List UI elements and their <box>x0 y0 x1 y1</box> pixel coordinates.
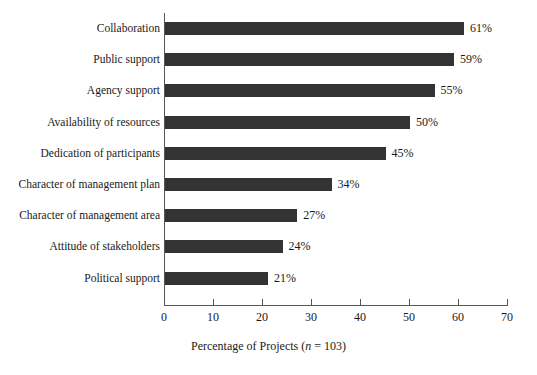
category-label: Character of management area <box>0 206 160 224</box>
x-axis-tick-label: 50 <box>389 309 429 325</box>
bar-chart-figure: Collaboration61%Public support59%Agency … <box>0 0 537 375</box>
bar <box>165 147 386 160</box>
x-axis-title-suffix: = 103) <box>311 339 346 353</box>
bar-rows-container: Collaboration61%Public support59%Agency … <box>0 0 537 305</box>
x-axis-tick <box>213 299 214 306</box>
category-label: Character of management plan <box>0 175 160 193</box>
bar-row: Character of management plan34% <box>0 178 537 191</box>
x-axis-tick-label: 60 <box>438 309 478 325</box>
x-axis-tick <box>262 299 263 306</box>
x-axis-tick <box>409 299 410 306</box>
bar <box>165 53 454 66</box>
plot-area: Collaboration61%Public support59%Agency … <box>0 0 537 375</box>
x-axis-tick <box>458 299 459 306</box>
bar-value-label: 24% <box>289 237 311 255</box>
bar-row: Dedication of participants45% <box>0 147 537 160</box>
x-axis-tick-label: 20 <box>242 309 282 325</box>
category-label: Attitude of stakeholders <box>0 237 160 255</box>
bar-value-label: 50% <box>416 113 438 131</box>
bar-row: Character of management area27% <box>0 209 537 222</box>
x-axis-title: Percentage of Projects (n = 103) <box>0 338 537 354</box>
x-axis-title-prefix: Percentage of Projects ( <box>191 339 305 353</box>
bar <box>165 84 435 97</box>
bar-row: Political support21% <box>0 272 537 285</box>
category-label: Availability of resources <box>0 113 160 131</box>
bar <box>165 209 297 222</box>
category-label: Dedication of participants <box>0 144 160 162</box>
bar-row: Agency support55% <box>0 84 537 97</box>
bar-value-label: 45% <box>392 144 414 162</box>
bar-value-label: 27% <box>303 206 325 224</box>
category-label: Agency support <box>0 81 160 99</box>
bar-value-label: 61% <box>470 19 492 37</box>
bar-value-label: 55% <box>441 81 463 99</box>
bar <box>165 272 268 285</box>
category-label: Collaboration <box>0 19 160 37</box>
x-axis-tick-label: 70 <box>487 309 527 325</box>
category-label: Public support <box>0 50 160 68</box>
x-axis-tick <box>507 299 508 306</box>
bar-row: Availability of resources50% <box>0 116 537 129</box>
bar-row: Public support59% <box>0 53 537 66</box>
x-axis-tick-label: 0 <box>144 309 184 325</box>
category-label: Political support <box>0 269 160 287</box>
bar <box>165 178 332 191</box>
bar <box>165 22 464 35</box>
bar-value-label: 21% <box>274 269 296 287</box>
bar-value-label: 59% <box>460 50 482 68</box>
x-axis-line <box>164 305 508 306</box>
x-axis-tick-label: 40 <box>340 309 380 325</box>
bar-row: Attitude of stakeholders24% <box>0 240 537 253</box>
x-axis-tick <box>360 299 361 306</box>
bar-row: Collaboration61% <box>0 22 537 35</box>
bar <box>165 240 283 253</box>
bar-value-label: 34% <box>338 175 360 193</box>
x-axis-tick-label: 10 <box>193 309 233 325</box>
x-axis-tick <box>311 299 312 306</box>
x-axis-tick-label: 30 <box>291 309 331 325</box>
bar <box>165 116 410 129</box>
